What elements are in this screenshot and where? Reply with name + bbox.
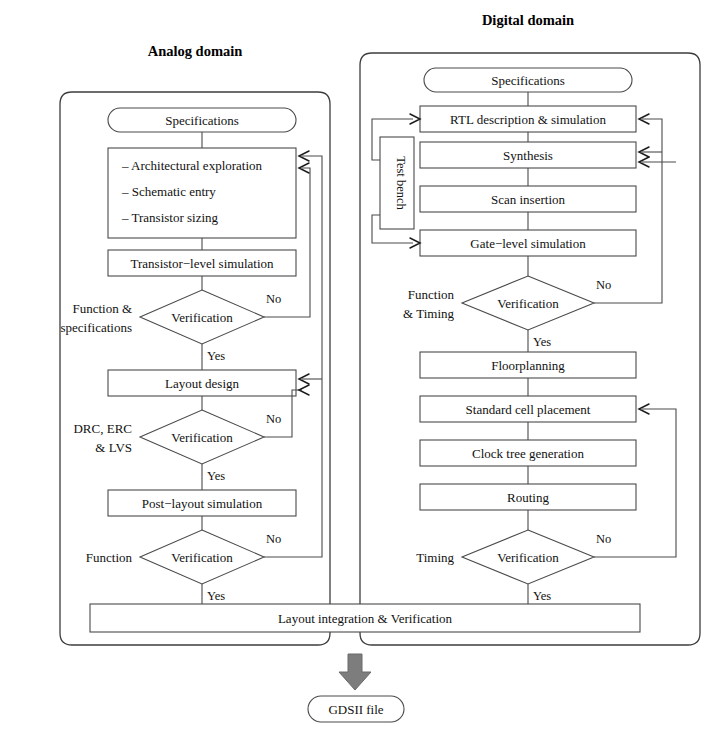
digital-rtl-label: RTL description & simulation: [450, 112, 606, 127]
analog-verification-1-yes-label: Yes: [207, 349, 225, 363]
digital-floorplanning-label: Floorplanning: [491, 358, 565, 373]
analog-task-schematic-entry: – Schematic entry: [121, 184, 216, 199]
analog-verification-1-label: Verification: [171, 310, 233, 325]
analog-verification-2-no-label: No: [266, 412, 281, 426]
digital-synthesis-label: Synthesis: [503, 148, 553, 163]
digital-routing-label: Routing: [507, 490, 549, 505]
digital-verification-1-label: Verification: [497, 296, 559, 311]
digital-verification-2-side-label: Timing: [416, 550, 454, 565]
digital-clock-tree-generation-label: Clock tree generation: [472, 446, 584, 461]
analog-transistor-level-simulation-label: Transistor−level simulation: [131, 256, 274, 271]
digital-verification-2-label: Verification: [497, 550, 559, 565]
analog-domain-title: Analog domain: [148, 43, 243, 59]
analog-verification-1-no-label: No: [266, 292, 281, 306]
digital-verification-2-no-label: No: [596, 532, 611, 546]
digital-test-bench-label: Test bench: [394, 156, 408, 210]
digital-verification-1-side-label-2: & Timing: [403, 306, 454, 321]
analog-verification-2-yes-label: Yes: [207, 469, 225, 483]
gdsii-down-arrow-icon: [339, 654, 371, 690]
analog-task-architectural-exploration: – Architectural exploration: [121, 158, 263, 173]
digital-verification-1-yes-label: Yes: [533, 335, 551, 349]
digital-verification-1-no-label: No: [596, 278, 611, 292]
digital-gate-level-simulation-label: Gate−level simulation: [470, 236, 586, 251]
analog-layout-design-label: Layout design: [165, 376, 240, 391]
analog-verification-2-side-label-2: & LVS: [95, 440, 132, 455]
layout-integration-label: Layout integration & Verification: [278, 611, 453, 626]
digital-verification-1-side-label-1: Function: [408, 287, 455, 302]
diagram-root: Analog domain Digital domain Specificati…: [0, 0, 720, 736]
digital-standard-cell-placement-label: Standard cell placement: [466, 402, 591, 417]
gdsii-file-label: GDSII file: [328, 702, 383, 717]
digital-domain-title: Digital domain: [482, 12, 574, 28]
analog-verification-3-side-label: Function: [86, 550, 133, 565]
analog-verification-2-label: Verification: [171, 430, 233, 445]
analog-verification-2-side-label-1: DRC, ERC: [73, 421, 132, 436]
analog-verification-1-side-label-2: specifications: [61, 320, 132, 335]
analog-specifications-label: Specifications: [165, 113, 239, 128]
analog-verification-3-label: Verification: [171, 550, 233, 565]
analog-feedback-verify2-arrowhead: [299, 385, 309, 395]
flowchart-canvas: Analog domain Digital domain Specificati…: [0, 0, 720, 736]
analog-verification-3-no-label: No: [266, 532, 281, 546]
analog-post-layout-simulation-label: Post−layout simulation: [142, 496, 263, 511]
analog-verification-1-side-label-1: Function &: [72, 301, 132, 316]
analog-verification-3-yes-label: Yes: [207, 589, 225, 603]
digital-verification-2-yes-label: Yes: [533, 589, 551, 603]
digital-scan-insertion-label: Scan insertion: [491, 192, 566, 207]
analog-task-transistor-sizing: – Transistor sizing: [121, 210, 219, 225]
digital-specifications-label: Specifications: [491, 73, 565, 88]
